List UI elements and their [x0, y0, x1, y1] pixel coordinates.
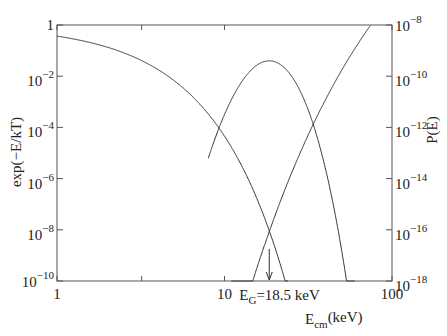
y-left-tick-label: 10−2 — [27, 68, 54, 89]
gamow-energy-annotation: EG=18.5 keV — [239, 287, 320, 306]
tunneling-curve — [231, 26, 370, 281]
y-left-tick-label: 1 — [47, 17, 55, 33]
y-right-axis-title: P(E) — [424, 116, 441, 144]
y-left-tick-label: 10−4 — [27, 119, 54, 140]
curves — [57, 26, 370, 281]
axis-labels: 110100110−210−410−610−810−1010−810−1010−… — [8, 13, 441, 330]
axis-ticks — [57, 25, 392, 281]
x-tick-label: 1 — [53, 286, 61, 302]
y-left-axis-title: exp(−E/kT) — [8, 117, 25, 187]
gamow-peak-curve — [208, 61, 354, 281]
x-axis-title: Ecm(keV) — [305, 309, 363, 330]
y-right-tick-label: 10−16 — [395, 222, 428, 243]
y-left-tick-label: 10−6 — [27, 171, 54, 192]
y-right-tick-label: 10−18 — [395, 273, 428, 294]
maxwell-boltzmann-curve — [57, 36, 288, 281]
y-right-tick-label: 10−12 — [395, 119, 427, 140]
plot-frame — [57, 25, 392, 281]
gamow-peak-chart: 110100110−210−410−610−810−1010−810−1010−… — [0, 0, 447, 336]
x-tick-label: 10 — [217, 286, 232, 302]
y-left-tick-label: 10−10 — [22, 269, 55, 290]
y-right-tick-label: 10−14 — [395, 171, 428, 192]
y-left-tick-label: 10−8 — [27, 222, 54, 243]
y-right-tick-label: 10−8 — [395, 13, 422, 34]
y-right-tick-label: 10−10 — [395, 68, 428, 89]
